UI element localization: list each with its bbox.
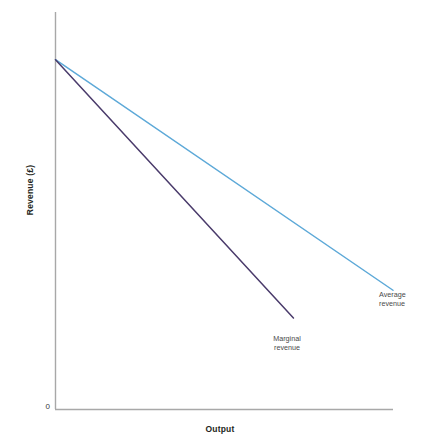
average-revenue-label: Average revenue: [379, 290, 406, 309]
chart-plot-area: [0, 0, 437, 447]
average-revenue-curve: [56, 60, 394, 291]
y-axis-origin-label: 0: [36, 402, 50, 411]
y-axis-title: Revenue (£): [25, 160, 35, 220]
marginal-revenue-curve: [56, 60, 294, 318]
average-revenue-label-line2: revenue: [379, 299, 406, 308]
average-revenue-label-line1: Average: [379, 290, 406, 299]
x-axis-title: Output: [160, 424, 280, 434]
revenue-curves-chart: 0 Revenue (£) Output Average revenue Mar…: [0, 0, 437, 447]
marginal-revenue-label-line2: revenue: [259, 343, 315, 352]
marginal-revenue-label: Marginal revenue: [259, 334, 315, 353]
marginal-revenue-label-line1: Marginal: [259, 334, 315, 343]
